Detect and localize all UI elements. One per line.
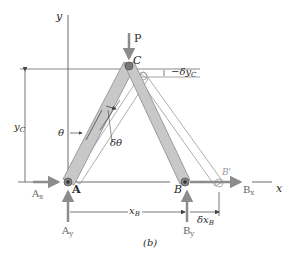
delta-xb-label: δxB	[197, 215, 214, 227]
joint-b-prime-label: B'	[222, 168, 231, 177]
delta-yc-label: −δyC	[171, 67, 196, 79]
force-bx-label: Bx	[243, 185, 254, 197]
member-bc	[124, 62, 190, 184]
delta-theta-label: δθ	[110, 138, 122, 148]
joint-a-label: A	[72, 184, 81, 195]
force-ax-label: Ax	[32, 189, 43, 201]
force-by-label: By	[183, 226, 194, 238]
member-ac	[63, 62, 135, 185]
pin-c	[125, 62, 133, 70]
y-axis-label: y	[56, 11, 62, 22]
x-axis-label: x	[276, 183, 282, 194]
xb-label: xB	[129, 206, 140, 218]
yc-label: yC	[14, 122, 25, 134]
force-ay-label: Ay	[62, 226, 73, 238]
load-p-label: P	[134, 33, 141, 44]
joint-c-label: C	[133, 55, 141, 66]
frame-diagram	[0, 0, 292, 259]
theta-label: θ	[58, 128, 64, 138]
figure-caption: (b)	[143, 238, 157, 248]
joint-b-label: B	[174, 184, 182, 195]
